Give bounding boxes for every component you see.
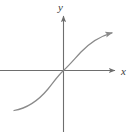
- x-axis-label: x: [121, 66, 126, 77]
- graph-figure: y x: [0, 0, 134, 135]
- coordinate-plot: [0, 0, 134, 135]
- y-axis-label: y: [58, 2, 63, 13]
